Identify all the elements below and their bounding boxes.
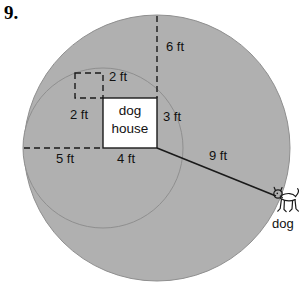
dimension-label-4ft: 4 ft (117, 152, 135, 166)
dimension-label-3ft: 3 ft (163, 110, 181, 124)
dog-house-label-line1: dog (103, 103, 157, 118)
dimension-label-5ft: 5 ft (56, 152, 74, 166)
dimension-label-6ft: 6 ft (166, 40, 184, 54)
problem-number: 9. (4, 2, 18, 24)
geometry-figure (0, 0, 306, 284)
figure-stage: 9. 6 ft 2 ft 2 ft 3 ft 5 ft 4 ft 9 ft do… (0, 0, 306, 284)
dimension-label-2ft-top: 2 ft (109, 70, 127, 84)
dimension-label-2ft-left: 2 ft (70, 108, 88, 122)
dog-house-label-line2: house (103, 121, 157, 136)
dog-label: dog (272, 216, 294, 231)
dimension-label-9ft: 9 ft (209, 149, 227, 163)
